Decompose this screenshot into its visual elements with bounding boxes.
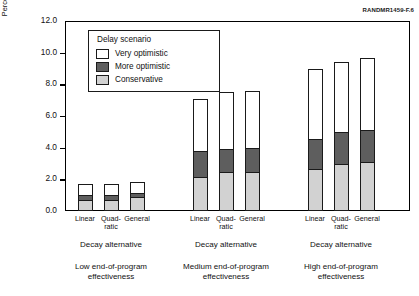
figure-id-label: RANDMR1459-F.6 (363, 7, 414, 13)
bar-segment-very-optimistic (79, 185, 92, 195)
bar-segment-very-optimistic (105, 185, 118, 194)
bar-segment-very-optimistic (194, 100, 207, 151)
bar-segment-very-optimistic (246, 92, 259, 149)
x-tick-label-line: General (116, 215, 158, 223)
bar-g1-general[interactable] (130, 182, 145, 211)
bar-segment-more-optimistic (220, 149, 233, 174)
bar-g1-linear[interactable] (78, 184, 93, 211)
bar-segment-conservative (335, 165, 348, 210)
bar-segment-conservative (361, 163, 374, 210)
legend-items: Very optimisticMore optimisticConservati… (96, 47, 213, 86)
legend: Delay scenario Very optimisticMore optim… (88, 30, 220, 92)
y-tick-4-0: 4.0 (0, 148, 65, 149)
bar-segment-conservative (79, 201, 92, 210)
x-tick-label-line: ratic (90, 223, 132, 231)
y-axis-title: Percentage reduction in present value of… (0, 0, 26, 52)
y-tick-label: 12.0 (41, 15, 57, 25)
y-axis-title-line1: Percentage reduction in present value (0, 0, 9, 52)
x-tick-label-g2-2: General (231, 215, 273, 223)
bar-g3-general[interactable] (360, 58, 375, 211)
y-tick-label: 8.0 (45, 78, 57, 88)
legend-item-label: Very optimistic (115, 49, 168, 58)
x-tick-label-g1-2: General (116, 215, 158, 223)
bar-segment-conservative (220, 173, 233, 210)
bar-segment-very-optimistic (361, 59, 374, 130)
bar-segment-more-optimistic (309, 139, 322, 170)
legend-swatch-icon (96, 75, 109, 85)
bar-g2-quadratic[interactable] (219, 92, 234, 211)
group-effectiveness-label-3: High end-of-programeffectiveness (261, 262, 419, 281)
figure-root: RANDMR1459-F.6 Percentage reduction in p… (0, 0, 419, 296)
bar-segment-very-optimistic (309, 70, 322, 139)
bar-segment-more-optimistic (361, 130, 374, 163)
legend-item-co[interactable]: Conservative (96, 73, 213, 86)
bar-segment-conservative (309, 170, 322, 210)
legend-item-label: Conservative (115, 75, 163, 84)
y-tick-label: 2.0 (45, 173, 57, 183)
bar-g3-quadratic[interactable] (334, 62, 349, 211)
x-tick-label-g3-2: General (346, 215, 388, 223)
bar-g1-quadratic[interactable] (104, 184, 119, 211)
y-tick-8-0: 8.0 (0, 84, 65, 85)
bar-segment-very-optimistic (220, 93, 233, 148)
group-effectiveness-line1: High end-of-program (261, 262, 419, 272)
legend-item-label: More optimistic (115, 62, 170, 71)
y-tick-label: 6.0 (45, 110, 57, 120)
bar-segment-more-optimistic (246, 148, 259, 172)
x-tick-label-line: General (346, 215, 388, 223)
bar-segment-conservative (194, 178, 207, 210)
y-tick-label: 4.0 (45, 142, 57, 152)
x-tick-label-line: ratic (320, 223, 362, 231)
group-effectiveness-line2: effectiveness (261, 272, 419, 282)
bar-g2-linear[interactable] (193, 99, 208, 211)
x-tick-label-line: ratic (205, 223, 247, 231)
group-decay-label-3: Decay alternative (266, 240, 416, 249)
legend-title: Delay scenario (97, 35, 213, 44)
x-tick-label-line: General (231, 215, 273, 223)
bar-segment-very-optimistic (335, 63, 348, 132)
bar-segment-more-optimistic (194, 151, 207, 178)
legend-item-vo[interactable]: Very optimistic (96, 47, 213, 60)
y-axis-title-line2: of consumption (9, 0, 18, 52)
bar-g2-general[interactable] (245, 91, 260, 211)
bar-segment-more-optimistic (335, 132, 348, 166)
y-tick-2-0: 2.0 (0, 179, 65, 180)
bar-segment-very-optimistic (131, 183, 144, 193)
bar-g3-linear[interactable] (308, 69, 323, 212)
bar-segment-conservative (105, 201, 118, 210)
y-tick-0-0: 0.0 (0, 211, 65, 212)
y-tick-label: 10.0 (41, 47, 57, 57)
bar-segment-conservative (131, 198, 144, 210)
bar-segment-conservative (246, 173, 259, 210)
y-tick-12-0: 12.0 (0, 21, 65, 22)
y-tick-10-0: 10.0 (0, 53, 65, 54)
legend-swatch-icon (96, 49, 109, 59)
y-tick-label: 0.0 (45, 205, 57, 215)
y-tick-6-0: 6.0 (0, 116, 65, 117)
legend-swatch-icon (96, 62, 109, 72)
legend-item-mo[interactable]: More optimistic (96, 60, 213, 73)
